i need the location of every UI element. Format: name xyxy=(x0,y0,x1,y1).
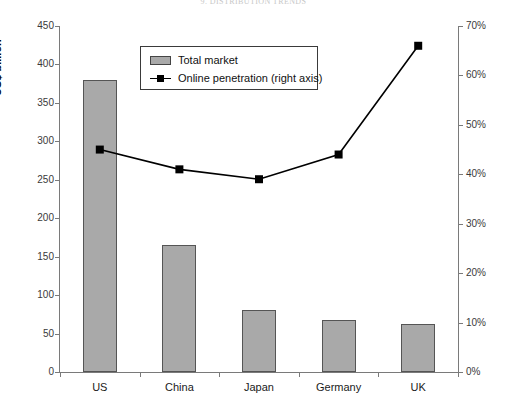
legend-label-total-market: Total market xyxy=(178,54,238,66)
right-axis-tick xyxy=(459,174,463,175)
bar xyxy=(162,245,196,372)
x-axis-tick-label: Germany xyxy=(299,381,379,393)
left-axis-tick-label: 350 xyxy=(37,98,54,108)
left-axis-tick xyxy=(55,295,59,296)
legend-label-online-penetration: Online penetration (right axis) xyxy=(178,72,322,84)
left-axis-tick-label: 250 xyxy=(37,175,54,185)
right-axis-tick-label: 0% xyxy=(466,367,480,377)
line-marker-swatch-icon xyxy=(150,74,171,83)
x-axis-tick xyxy=(299,373,300,377)
left-axis-tick-label: 400 xyxy=(37,59,54,69)
left-axis-tick xyxy=(55,334,59,335)
x-axis-tick-label: UK xyxy=(378,381,458,393)
right-axis-line xyxy=(458,26,459,373)
right-axis-tick xyxy=(459,125,463,126)
bar xyxy=(322,320,356,372)
left-axis-tick-label: 50 xyxy=(43,329,54,339)
right-axis-tick xyxy=(459,26,463,27)
bar xyxy=(83,80,117,372)
right-axis-tick xyxy=(459,75,463,76)
left-axis-tick-label: 100 xyxy=(37,290,54,300)
left-axis-tick-label: 0 xyxy=(48,367,54,377)
left-axis-tick xyxy=(55,372,59,373)
right-axis-tick xyxy=(459,224,463,225)
right-axis-tick-label: 30% xyxy=(466,219,486,229)
x-axis-tick xyxy=(219,373,220,377)
right-axis-tick-label: 20% xyxy=(466,268,486,278)
x-axis-tick xyxy=(60,373,61,377)
left-axis-tick-label: 300 xyxy=(37,136,54,146)
left-axis-tick xyxy=(55,180,59,181)
legend-item-online-penetration: Online penetration (right axis) xyxy=(150,71,322,85)
left-axis-tick xyxy=(55,26,59,27)
right-axis-tick xyxy=(459,372,463,373)
x-axis-tick xyxy=(140,373,141,377)
left-axis-line xyxy=(59,26,60,373)
bar-swatch-icon xyxy=(150,56,171,65)
legend-item-total-market: Total market xyxy=(150,53,238,67)
line-marker xyxy=(175,165,183,173)
left-axis-tick xyxy=(55,257,59,258)
line-marker xyxy=(255,175,263,183)
right-axis-tick-label: 10% xyxy=(466,318,486,328)
left-axis-tick xyxy=(55,141,59,142)
left-axis-tick xyxy=(55,64,59,65)
bar xyxy=(401,324,435,372)
x-axis-line xyxy=(59,372,459,373)
right-axis-tick-label: 60% xyxy=(466,70,486,80)
x-axis-tick xyxy=(458,373,459,377)
right-axis-tick-label: 40% xyxy=(466,169,486,179)
bar xyxy=(242,310,276,372)
chart-legend: Total market Online penetration (right a… xyxy=(140,46,318,90)
line-marker xyxy=(414,42,422,50)
chart-figure: US$ billion 050100150200250300350400450 … xyxy=(0,0,507,416)
left-axis-tick-label: 200 xyxy=(37,213,54,223)
x-axis-tick-label: Japan xyxy=(219,381,299,393)
left-axis-tick xyxy=(55,218,59,219)
line-marker xyxy=(335,151,343,159)
right-axis-tick-label: 50% xyxy=(466,120,486,130)
x-axis-tick-label: China xyxy=(140,381,220,393)
right-axis-tick xyxy=(459,273,463,274)
y-axis-title: US$ billion xyxy=(0,39,3,96)
x-axis-tick-label: US xyxy=(60,381,140,393)
left-axis-tick xyxy=(55,103,59,104)
right-axis-tick xyxy=(459,323,463,324)
right-axis-tick-label: 70% xyxy=(466,21,486,31)
left-axis-tick-label: 150 xyxy=(37,252,54,262)
x-axis-tick xyxy=(378,373,379,377)
left-axis-tick-label: 450 xyxy=(37,21,54,31)
